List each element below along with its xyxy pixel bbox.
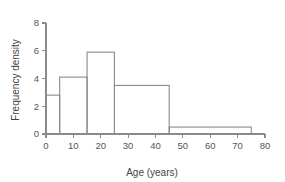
x-tick-label: 0 (43, 140, 48, 151)
chart-canvas: 02468 01020304050607080 Age (years) Freq… (0, 0, 285, 182)
y-tick-label: 6 (34, 45, 39, 56)
y-tick-label: 4 (34, 73, 39, 84)
histogram-bar (169, 127, 251, 134)
x-tick-label: 60 (205, 140, 216, 151)
x-tick-label: 20 (95, 140, 106, 151)
x-tick-label: 10 (68, 140, 79, 151)
histogram-bar (46, 95, 60, 134)
y-tick-label: 0 (34, 128, 39, 139)
x-tick-label: 70 (232, 140, 243, 151)
x-tick-label: 40 (150, 140, 161, 151)
x-tick-label: 80 (260, 140, 271, 151)
x-axis: 01020304050607080 (43, 134, 270, 151)
x-tick-label: 30 (123, 140, 134, 151)
histogram-bar (114, 85, 169, 134)
y-axis: 02468 (34, 17, 46, 139)
x-tick-label: 50 (178, 140, 189, 151)
x-axis-title: Age (years) (126, 167, 178, 178)
y-tick-label: 2 (34, 101, 39, 112)
histogram-bar (60, 77, 87, 134)
histogram-chart: 02468 01020304050607080 Age (years) Freq… (0, 0, 285, 182)
histogram-bar (87, 52, 114, 134)
y-tick-label: 8 (34, 17, 39, 28)
bar-series (46, 52, 251, 134)
y-axis-title: Frequency density (10, 39, 21, 121)
